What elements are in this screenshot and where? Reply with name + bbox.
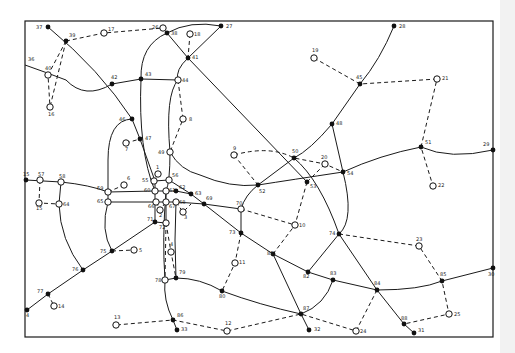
filled-node-marker (440, 279, 445, 284)
dashed-link (273, 182, 307, 254)
open-node-marker (162, 277, 168, 283)
node-57: 57 (37, 171, 45, 183)
node-42: 42 (110, 74, 118, 86)
node-27: 27 (219, 23, 233, 29)
open-node-marker (105, 199, 111, 205)
open-node-marker (151, 178, 157, 184)
node-label: 22 (438, 182, 444, 188)
node-88: 88 (401, 315, 407, 326)
filled-node-marker (341, 170, 346, 175)
open-node-marker (56, 201, 62, 207)
open-node-marker (47, 104, 53, 110)
open-node-marker (58, 179, 64, 185)
filled-node-marker (412, 331, 417, 336)
node-label: 18 (194, 31, 200, 37)
filled-node-marker (110, 82, 115, 87)
solid-link (59, 182, 83, 270)
node-23: 23 (416, 236, 423, 249)
node-label: 68 (179, 199, 185, 205)
open-node-marker (231, 152, 237, 158)
node-16: 16 (47, 104, 55, 117)
filled-node-marker (165, 31, 170, 36)
node-38: 38 (165, 30, 178, 36)
filled-node-marker (130, 117, 135, 122)
node-49: 49 (158, 149, 173, 155)
node-label: 4 (26, 312, 29, 318)
node-label: 71 (147, 216, 153, 222)
node-label: 2 (159, 212, 162, 218)
diagram-frame (25, 21, 493, 337)
filled-node-marker (139, 77, 144, 82)
node-label: 15 (36, 205, 42, 211)
filled-node-marker (337, 232, 342, 237)
node-10: 10 (292, 222, 306, 228)
node-label: 66 (148, 203, 154, 209)
node-label: 15 (23, 171, 29, 177)
filled-node-marker (292, 156, 297, 161)
node-30: 30 (488, 266, 495, 277)
node-label: 76 (72, 266, 78, 272)
node-label: 11 (239, 259, 245, 265)
open-node-marker (121, 182, 127, 188)
solid-link (170, 147, 493, 186)
node-label: 38 (171, 30, 177, 36)
filled-node-marker (491, 266, 496, 271)
dashed-link (116, 290, 377, 331)
node-label: 43 (145, 71, 151, 77)
node-41: 41 (186, 54, 199, 60)
node-label: 72 (159, 224, 165, 230)
node-label: 37 (36, 24, 42, 30)
dashed-link (39, 180, 59, 204)
node-15: 15 (23, 171, 29, 182)
node-32: 32 (307, 326, 321, 332)
node-24: 24 (353, 328, 367, 334)
node-label: 23 (416, 236, 422, 242)
filled-node-marker (175, 328, 180, 333)
node-label: 77 (37, 288, 43, 294)
node-label: 12 (225, 320, 231, 326)
node-label: 58 (59, 173, 65, 179)
node-54: 54 (341, 170, 354, 176)
node-26: 26 (152, 24, 166, 31)
dashed-link (234, 155, 258, 185)
node-label: 10 (299, 222, 305, 228)
node-label: 65 (97, 198, 103, 204)
open-node-marker (224, 328, 230, 334)
node-label: 82 (303, 273, 309, 279)
node-label: 29 (483, 141, 489, 147)
node-label: 85 (440, 271, 446, 277)
node-82: 82 (303, 270, 310, 279)
open-node-marker (187, 31, 193, 37)
node-15: 15 (36, 200, 43, 211)
node-7: 7 (123, 140, 129, 152)
node-label: 62 (179, 184, 185, 190)
filled-node-marker (64, 39, 69, 44)
node-25: 25 (446, 311, 461, 317)
solid-link (141, 24, 221, 79)
node-13: 13 (113, 314, 121, 328)
node-5: 5 (131, 247, 142, 253)
node-56: 56 (166, 172, 179, 183)
node-label: 28 (399, 23, 405, 29)
node-17: 17 (101, 26, 115, 36)
dashed-link (165, 223, 166, 280)
open-node-marker (105, 189, 111, 195)
open-node-marker (131, 247, 137, 253)
node-77: 77 (37, 288, 50, 296)
node-label: 47 (145, 135, 151, 141)
open-node-marker (180, 116, 186, 122)
node-label: 24 (360, 328, 366, 334)
node-48: 48 (330, 120, 343, 126)
node-55: 55 (142, 177, 157, 184)
node-label: 60 (144, 187, 150, 193)
node-68: 68 (173, 199, 186, 205)
node-31: 31 (412, 327, 425, 335)
node-label: 27 (226, 23, 232, 29)
node-label: 50 (292, 148, 298, 154)
filled-node-marker (305, 180, 310, 185)
node-label: 79 (179, 269, 185, 275)
node-label: 5 (139, 247, 142, 253)
open-node-marker (416, 243, 422, 249)
filled-node-marker (239, 231, 244, 236)
filled-node-marker (331, 278, 336, 283)
